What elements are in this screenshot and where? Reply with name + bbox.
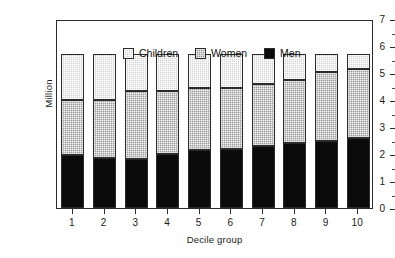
bar-segment-women[interactable] [283,80,306,143]
bar-segment-men[interactable] [283,143,306,208]
bar-segment-men[interactable] [315,141,338,209]
bar-segment-women[interactable] [61,100,84,155]
x-tick-label: 4 [153,217,181,228]
bar-segment-children[interactable] [347,54,370,69]
legend-swatch-women [195,48,206,59]
chart-legend: ChildrenWomenMen [123,45,301,61]
x-tick-mark [325,209,326,214]
x-tick-label: 9 [311,217,339,228]
x-tick-label: 3 [121,217,149,228]
bar-decile-10[interactable] [347,19,370,208]
y-tick-mark [390,101,395,102]
y-tick-mark [390,128,395,129]
bar-segment-women[interactable] [347,69,370,138]
bar-segment-children[interactable] [93,54,116,100]
legend-swatch-men [264,48,275,59]
bar-segment-children[interactable] [61,54,84,100]
bar-decile-1[interactable] [61,19,84,208]
y-tick-mark [390,182,395,183]
y-tick-mark [390,47,395,48]
x-tick-mark [294,209,295,214]
x-tick-mark [262,209,263,214]
bar-segment-women[interactable] [220,88,243,149]
legend-item-women[interactable]: Women [195,48,247,59]
bar-segment-women[interactable] [156,91,179,154]
x-tick-label: 7 [248,217,276,228]
bar-segment-men[interactable] [347,138,370,208]
y-tick-mark [390,74,395,75]
plot-area: ChildrenWomenMen [56,20,373,209]
x-tick-mark [230,209,231,214]
bar-segment-women[interactable] [188,88,211,150]
bar-decile-9[interactable] [315,19,338,208]
x-tick-label: 2 [90,217,118,228]
x-tick-mark [167,209,168,214]
x-tick-mark [72,209,73,214]
x-tick-label: 6 [216,217,244,228]
legend-label: Women [211,48,247,59]
bar-segment-men[interactable] [156,154,179,208]
y-tick-mark [390,155,395,156]
bar-segment-men[interactable] [188,150,211,208]
bar-segment-men[interactable] [252,146,275,208]
x-tick-label: 5 [185,217,213,228]
y-axis-title: Million [43,34,54,154]
x-tick-mark [135,209,136,214]
bar-segment-children[interactable] [315,54,338,72]
legend-swatch-children [123,48,134,59]
bar-segment-women[interactable] [252,84,275,146]
x-tick-mark [104,209,105,214]
legend-item-children[interactable]: Children [123,48,178,59]
x-tick-mark [199,209,200,214]
stacked-bar-chart: Million 01234567 12345678910 ChildrenWom… [0,0,395,258]
bar-segment-women[interactable] [125,91,148,159]
y-tick-mark [390,209,395,210]
bar-decile-2[interactable] [93,19,116,208]
legend-label: Children [139,48,178,59]
legend-label: Men [280,48,300,59]
legend-item-men[interactable]: Men [264,48,300,59]
bar-segment-men[interactable] [125,159,148,208]
x-axis-title: Decile group [56,234,373,245]
x-tick-label: 10 [343,217,371,228]
y-tick-mark [390,20,395,21]
bar-segment-men[interactable] [93,158,116,208]
bar-segment-men[interactable] [220,149,243,208]
x-tick-label: 8 [280,217,308,228]
bar-segment-men[interactable] [61,155,84,208]
x-tick-label: 1 [58,217,86,228]
x-tick-mark [357,209,358,214]
bar-segment-women[interactable] [93,100,116,158]
bar-segment-women[interactable] [315,72,338,141]
